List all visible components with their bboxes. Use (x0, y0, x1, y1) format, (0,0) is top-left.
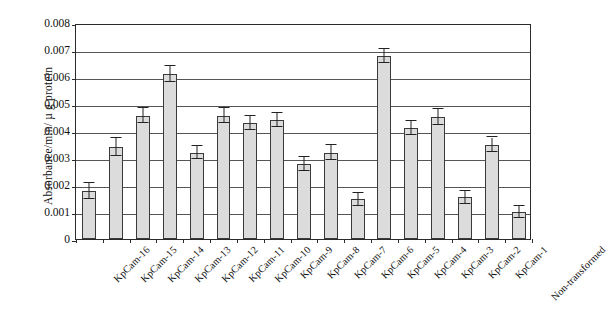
x-tick-mark (76, 239, 77, 243)
bar (136, 116, 150, 239)
y-tick-mark (72, 25, 76, 26)
error-bar-cap-bottom (138, 122, 149, 123)
error-bar-cap-bottom (164, 81, 175, 82)
x-tick-mark (452, 239, 453, 243)
error-bar (89, 183, 90, 198)
y-tick-mark (72, 106, 76, 107)
bar (431, 117, 445, 239)
x-tick-mark (291, 239, 292, 243)
x-tick-mark (156, 239, 157, 243)
bar-group (351, 25, 365, 239)
error-bar-cap-bottom (218, 122, 229, 123)
error-bar-cap-bottom (352, 205, 363, 206)
bar (485, 145, 499, 240)
x-tick-mark (210, 239, 211, 243)
bar (297, 164, 311, 239)
y-tick-mark (72, 52, 76, 53)
x-tick-mark (130, 239, 131, 243)
y-tick-label: 0 (26, 234, 70, 246)
y-tick-label: 0.004 (26, 126, 70, 138)
y-tick-mark (72, 187, 76, 188)
error-bar-cap-top (513, 205, 524, 206)
x-tick-label: Non-transformed (549, 244, 607, 302)
plot-area (75, 24, 531, 240)
error-bar-cap-top (325, 144, 336, 145)
error-bar-cap-top (272, 112, 283, 113)
bar (243, 123, 257, 239)
x-tick-mark (183, 239, 184, 243)
bar (109, 147, 123, 239)
error-bar (303, 157, 304, 171)
error-bar (491, 138, 492, 152)
x-tick-mark (237, 239, 238, 243)
error-bar (169, 66, 170, 82)
x-tick-mark (264, 239, 265, 243)
bar-group (109, 25, 123, 239)
bar-group (82, 25, 96, 239)
error-bar-cap-bottom (486, 151, 497, 152)
error-bar (250, 116, 251, 130)
bar-group (324, 25, 338, 239)
y-tick-mark (72, 79, 76, 80)
error-bar (438, 109, 439, 125)
bar-group (297, 25, 311, 239)
x-tick-mark (103, 239, 104, 243)
error-bar-cap-bottom (191, 158, 202, 159)
x-tick-mark (532, 239, 533, 243)
x-tick-mark (505, 239, 506, 243)
error-bar-cap-bottom (272, 126, 283, 127)
y-tick-label: 0.007 (26, 45, 70, 57)
bar-group (270, 25, 284, 239)
y-tick-mark (72, 160, 76, 161)
error-bar-cap-bottom (245, 129, 256, 130)
error-bar (330, 145, 331, 160)
x-tick-mark (344, 239, 345, 243)
y-tick-label: 0.001 (26, 207, 70, 219)
error-bar-cap-top (84, 182, 95, 183)
bar (324, 153, 338, 239)
error-bar-cap-bottom (325, 159, 336, 160)
y-tick-label: 0.003 (26, 153, 70, 165)
x-axis-tick-labels: KpCam-16KpCam-15KpCam-14KpCam-13KpCam-12… (75, 244, 531, 329)
error-bar (411, 121, 412, 135)
bar-group (243, 25, 257, 239)
error-bar (277, 113, 278, 127)
error-bar-cap-top (486, 136, 497, 137)
bar (163, 74, 177, 239)
bar-group (458, 25, 472, 239)
y-tick-label: 0.006 (26, 72, 70, 84)
error-bar-cap-top (111, 137, 122, 138)
error-bar-cap-top (406, 120, 417, 121)
bar-group (404, 25, 418, 239)
error-bar-cap-bottom (433, 124, 444, 125)
bar-group (163, 25, 177, 239)
x-tick-mark (425, 239, 426, 243)
x-tick-mark (371, 239, 372, 243)
error-bar (143, 108, 144, 123)
error-bar-cap-top (459, 190, 470, 191)
bar-group (136, 25, 150, 239)
bar-group (377, 25, 391, 239)
error-bar-cap-bottom (406, 134, 417, 135)
error-bar-cap-bottom (298, 170, 309, 171)
error-bar-cap-bottom (379, 62, 390, 63)
y-tick-label: 0.002 (26, 180, 70, 192)
bar (270, 120, 284, 239)
error-bar-cap-bottom (111, 155, 122, 156)
error-bar-cap-top (298, 156, 309, 157)
y-tick-label: 0.008 (26, 18, 70, 30)
error-bar-cap-top (138, 107, 149, 108)
error-bar (223, 108, 224, 123)
error-bar (116, 138, 117, 156)
error-bar-cap-bottom (513, 217, 524, 218)
bar (217, 116, 231, 239)
x-tick-mark (398, 239, 399, 243)
error-bar-cap-top (164, 65, 175, 66)
error-bar (384, 49, 385, 63)
error-bar-cap-top (191, 145, 202, 146)
y-tick-label: 0.005 (26, 99, 70, 111)
bar-group (190, 25, 204, 239)
error-bar-cap-top (379, 48, 390, 49)
error-bar-cap-top (218, 107, 229, 108)
